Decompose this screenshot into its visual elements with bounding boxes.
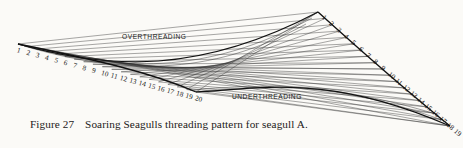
label-underthreading: UNDERTHREADING	[232, 93, 302, 100]
rail-tick-label: 18	[175, 89, 185, 99]
rail-tick-label: 20	[194, 94, 204, 104]
left-rail-tick-labels: 1234567891011121314151617181920	[16, 46, 204, 104]
rail-tick-label: 14	[138, 79, 148, 89]
rail-tick-label: 9	[91, 66, 97, 75]
rail-tick-label: 6	[63, 59, 69, 68]
rail-tick-label: 17	[166, 87, 176, 97]
figure-caption-text: Soaring Seagulls threading pattern for s…	[85, 118, 308, 130]
rail-tick-label: 7	[72, 61, 78, 70]
rail-tick-label: 1	[16, 46, 22, 55]
rail-tick-label: 5	[53, 56, 59, 65]
thread-line	[46, 31, 340, 52]
thread-line	[168, 25, 333, 85]
label-overthreading: OVERTHREADING	[122, 33, 187, 40]
rail-tick-label: 16	[156, 84, 166, 94]
rail-tick-label: 19	[185, 92, 195, 102]
rail-tick-label: 15	[147, 82, 157, 92]
rail-tick-label: 13	[128, 77, 138, 87]
rail-tick-label: 11	[110, 72, 119, 82]
right-rail-tick-labels: 12345678910111213141516171819	[320, 13, 463, 138]
rail-tick-label: 19	[452, 127, 463, 138]
figure-number: Figure 27	[30, 118, 74, 130]
rail-tick-label: 2	[25, 49, 31, 58]
rail-tick-label: 8	[82, 64, 88, 73]
rail-tick-label: 10	[100, 69, 110, 79]
rail-tick-label: 3	[35, 51, 41, 60]
figure-caption: Figure 27Soaring Seagulls threading patt…	[30, 118, 308, 130]
rail-tick-label: 4	[44, 54, 50, 63]
rail-tick-label: 12	[119, 74, 129, 84]
